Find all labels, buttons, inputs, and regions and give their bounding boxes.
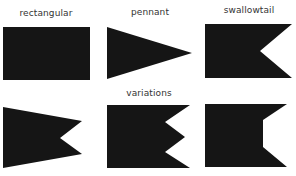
flag-swallowtail-shape: [205, 24, 292, 78]
flag-rectangular-shape: [3, 27, 90, 80]
flag-variation-pennant-swallowtail-shape: [3, 107, 82, 168]
flag-pennant-shape: [107, 27, 192, 79]
label-swallowtail: swallowtail: [224, 5, 275, 15]
label-variations: variations: [126, 88, 172, 98]
flag-variation-flat-notch-shape: [205, 104, 287, 167]
label-pennant: pennant: [131, 7, 169, 17]
flag-variation-double-notch-shape: [107, 105, 190, 168]
label-rectangular: rectangular: [20, 8, 73, 18]
